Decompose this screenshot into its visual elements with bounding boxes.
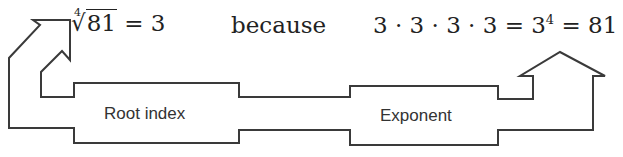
radicand: 81 bbox=[86, 9, 117, 36]
root-index-value: 4 bbox=[74, 6, 81, 19]
exponent-label: Exponent bbox=[380, 106, 452, 126]
because-word: because bbox=[231, 12, 326, 38]
root-index-label: Root index bbox=[104, 104, 185, 124]
power-equation: 3 · 3 · 3 · 3 = 34 = 81 bbox=[373, 12, 617, 38]
power-result: = 81 bbox=[554, 12, 617, 38]
root-equation: 4 √81 = 3 bbox=[71, 10, 165, 36]
repeated-product: 3 · 3 · 3 · 3 = 3 bbox=[373, 12, 546, 38]
exponent-value: 4 bbox=[546, 12, 554, 27]
root-result: = 3 bbox=[117, 10, 166, 36]
radical: 4 √81 bbox=[71, 10, 117, 36]
